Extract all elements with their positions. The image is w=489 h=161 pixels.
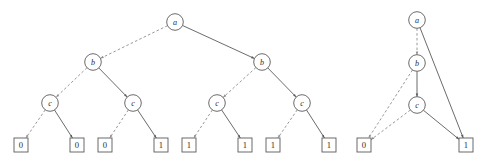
edge-t-b1-to-t-c2 [99, 68, 127, 97]
edge-t-c2-to-t-l4 [138, 110, 157, 138]
node-t-l1-0[interactable]: 0 [14, 138, 28, 152]
node-r-b-b[interactable]: b [409, 55, 426, 72]
node-label: 1 [327, 140, 331, 150]
node-label: 0 [103, 140, 107, 150]
edge-t-c4-to-t-l8 [306, 110, 324, 138]
node-t-b2-b[interactable]: b [254, 54, 271, 71]
node-t-c1-c[interactable]: c [42, 95, 59, 112]
edge-r-a-to-r-l1 [420, 28, 463, 138]
node-label: 0 [75, 140, 79, 150]
node-r-l0-0[interactable]: 0 [357, 138, 371, 152]
node-t-b1-b[interactable]: b [85, 54, 102, 71]
node-label: c [131, 99, 135, 108]
edge-r-c-to-r-l0 [371, 110, 410, 140]
edge-t-b2-to-t-c4 [268, 68, 296, 97]
node-t-l4-1[interactable]: 1 [154, 138, 168, 152]
node-label: a [173, 18, 177, 27]
edge-t-b2-to-t-c3 [223, 68, 256, 98]
node-label: b [91, 58, 95, 67]
node-t-l7-1[interactable]: 1 [266, 138, 280, 152]
node-t-l3-0[interactable]: 0 [98, 138, 112, 152]
node-t-l6-1[interactable]: 1 [238, 138, 252, 152]
node-r-l1-1[interactable]: 1 [459, 138, 473, 152]
node-label: c [415, 101, 419, 110]
edge-t-c3-to-t-l6 [222, 110, 241, 138]
node-t-c2-c[interactable]: c [125, 95, 142, 112]
node-label: 1 [464, 140, 468, 150]
node-label: a [415, 16, 419, 25]
node-label: c [300, 99, 304, 108]
node-label: 1 [159, 140, 163, 150]
arrowhead-t-a-to-t-b2 [251, 56, 254, 58]
node-label: c [48, 99, 52, 108]
node-t-c4-c[interactable]: c [294, 95, 311, 112]
arrowhead-r-b-to-r-c [416, 94, 419, 97]
edges-layer [26, 25, 463, 139]
node-label: 1 [271, 140, 275, 150]
edge-t-a-to-t-b1 [100, 26, 167, 59]
node-label: 0 [19, 140, 23, 150]
edge-t-c3-to-t-l5 [194, 110, 213, 138]
node-label: b [415, 59, 419, 68]
node-t-l8-1[interactable]: 1 [322, 138, 336, 152]
arrowhead-r-a-to-r-l1 [461, 135, 463, 138]
node-label: 1 [243, 140, 247, 150]
node-t-l5-1[interactable]: 1 [182, 138, 196, 152]
edge-t-a-to-t-b2 [183, 25, 255, 58]
node-label: 0 [362, 140, 366, 150]
node-r-c-c[interactable]: c [409, 97, 426, 114]
edge-t-c2-to-t-l3 [110, 110, 129, 138]
node-t-l2-0[interactable]: 0 [70, 138, 84, 152]
edge-t-c1-to-t-l2 [54, 110, 72, 138]
bdd-figure: abbcccc00011111abc01 [0, 0, 489, 161]
arrowhead-r-a-to-r-b [416, 52, 419, 55]
node-label: 1 [187, 140, 191, 150]
node-r-a-a[interactable]: a [409, 12, 426, 29]
node-label: c [215, 99, 219, 108]
bdd-svg-canvas: abbcccc00011111abc01 [0, 0, 489, 161]
node-t-c3-c[interactable]: c [209, 95, 226, 112]
node-t-a-a[interactable]: a [167, 14, 184, 31]
nodes-layer: abbcccc00011111abc01 [14, 12, 473, 152]
node-label: b [260, 58, 264, 67]
edge-t-b1-to-t-c1 [56, 68, 87, 98]
arrowhead-t-a-to-t-b1 [100, 56, 103, 59]
edge-r-b-to-r-l0 [369, 70, 413, 138]
edge-t-c4-to-t-l7 [278, 110, 297, 138]
edge-t-c1-to-t-l1 [26, 110, 45, 138]
